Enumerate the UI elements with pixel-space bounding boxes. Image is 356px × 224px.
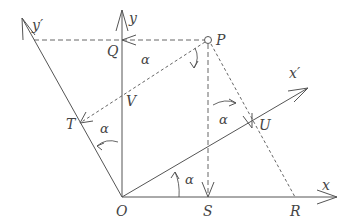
label-point-O: O — [116, 203, 128, 219]
label-point-P: P — [215, 32, 226, 48]
label-y-prime-axis: y′ — [31, 17, 44, 33]
label-x-axis: x — [322, 177, 330, 193]
angle-arc-T — [97, 141, 118, 146]
label-point-U: U — [259, 117, 272, 133]
label-x-prime-axis: x′ — [289, 65, 301, 81]
angle-arc-U-arrowhead — [229, 99, 236, 106]
label-point-T: T — [66, 116, 77, 132]
point-P-marker — [205, 37, 212, 44]
label-point-V: V — [126, 93, 138, 109]
label-point-R: R — [289, 203, 301, 219]
label-angle-alpha-P: α — [141, 52, 150, 67]
label-angle-alpha-U: α — [219, 112, 228, 127]
label-point-Q: Q — [107, 43, 119, 59]
label-y-axis: y — [128, 10, 138, 26]
label-point-S: S — [203, 203, 213, 219]
label-angle-alpha-O: α — [185, 172, 194, 187]
rotation-diagram: y y′ x′ x P Q V T U O S R α α α α — [0, 0, 356, 224]
label-angle-alpha-T: α — [100, 121, 109, 136]
arrow-at-T — [80, 112, 93, 123]
angle-arc-T-arrowhead — [97, 143, 104, 150]
